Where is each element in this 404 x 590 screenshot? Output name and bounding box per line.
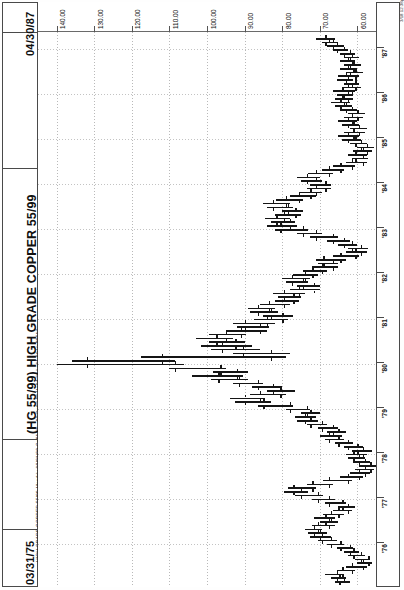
year-tick-label: '79: [381, 409, 388, 418]
year-tick-label: '81: [381, 319, 388, 328]
ohlc-close-tick: [273, 208, 274, 211]
price-tick-label: 60.00: [360, 13, 367, 29]
ohlc-close-tick: [348, 85, 349, 88]
ohlc-bar: [335, 98, 354, 100]
ohlc-bar: [312, 525, 335, 527]
ohlc-close-tick: [316, 193, 317, 196]
ohlc-bar: [327, 431, 346, 433]
ohlc-close-tick: [348, 511, 349, 514]
ohlc-bar: [353, 150, 372, 152]
ohlc-bar: [359, 465, 376, 467]
ohlc-close-tick: [280, 395, 281, 398]
ohlc-close-tick: [314, 534, 315, 537]
ohlc-bar: [355, 559, 370, 561]
price-axis-band: 140.00130.00120.00110.00100.0090.0080.00…: [38, 2, 376, 32]
ohlc-close-tick: [263, 407, 264, 410]
ohlc-close-tick: [299, 294, 300, 297]
ohlc-close-tick: [303, 287, 304, 290]
ohlc-close-tick: [363, 163, 364, 166]
ohlc-close-tick: [305, 279, 306, 282]
ohlc-bar: [275, 300, 299, 302]
ohlc-open-tick: [331, 537, 332, 540]
ohlc-open-tick: [237, 369, 238, 372]
ohlc-bar: [318, 263, 339, 265]
ohlc-open-tick: [316, 170, 317, 173]
ohlc-close-tick: [320, 538, 321, 541]
ohlc-bar: [248, 308, 274, 310]
ohlc-close-tick: [216, 343, 217, 346]
ohlc-open-tick: [357, 110, 358, 113]
ohlc-open-tick: [235, 339, 236, 342]
ohlc-open-tick: [361, 245, 362, 248]
ohlc-bar: [301, 180, 322, 182]
ohlc-open-tick: [273, 200, 274, 203]
ohlc-close-tick: [348, 100, 349, 103]
year-tick-mark: [377, 452, 384, 453]
ohlc-close-tick: [353, 129, 354, 132]
ohlc-bar: [297, 420, 318, 422]
ohlc-close-tick: [258, 388, 259, 391]
ohlc-open-tick: [260, 391, 261, 394]
ohlc-open-tick: [348, 504, 349, 507]
ohlc-open-tick: [323, 256, 324, 259]
ohlc-open-tick: [310, 410, 311, 413]
ohlc-close-tick: [342, 96, 343, 99]
ohlc-bar: [327, 45, 344, 47]
ohlc-close-tick: [312, 276, 313, 279]
ohlc-open-tick: [322, 421, 323, 424]
ohlc-close-tick: [370, 470, 371, 473]
start-date-label: 03/31/75: [24, 541, 36, 585]
ohlc-bar: [344, 117, 363, 119]
ohlc-close-tick: [352, 249, 353, 252]
year-tick-mark: [377, 227, 384, 228]
ohlc-open-tick: [293, 485, 294, 488]
year-tick-mark: [377, 362, 384, 363]
ohlc-close-tick: [312, 489, 313, 492]
ohlc-bar: [267, 207, 293, 209]
ohlc-close-tick: [260, 399, 261, 402]
ohlc-bar: [265, 218, 289, 220]
end-date-label: 04/30/87: [24, 12, 36, 56]
ohlc-bar: [169, 368, 225, 370]
ohlc-bar: [310, 184, 331, 186]
ohlc-close-tick: [316, 238, 317, 241]
ohlc-open-tick: [303, 226, 304, 229]
price-tick-label: 70.00: [322, 13, 329, 29]
ohlc-bar: [350, 128, 367, 130]
ohlc-bar: [278, 296, 301, 298]
year-tick-label: '83: [381, 229, 388, 238]
ohlc-bar: [211, 379, 249, 381]
ohlc-close-tick: [350, 73, 351, 76]
ohlc-close-tick: [245, 328, 246, 331]
ohlc-close-tick: [359, 133, 360, 136]
ohlc-bar: [357, 147, 374, 149]
ohlc-open-tick: [318, 492, 319, 495]
ohlc-close-tick: [353, 137, 354, 140]
ohlc-close-tick: [340, 107, 341, 110]
ohlc-close-tick: [355, 144, 356, 147]
ohlc-close-tick: [352, 167, 353, 170]
ohlc-open-tick: [340, 541, 341, 544]
ohlc-bar: [342, 139, 361, 141]
ohlc-open-tick: [357, 444, 358, 447]
ohlc-close-tick: [359, 463, 360, 466]
ohlc-close-tick: [333, 268, 334, 271]
ohlc-close-tick: [245, 403, 246, 406]
year-tick-label: '84: [381, 184, 388, 193]
ohlc-close-tick: [273, 392, 274, 395]
ohlc-close-tick: [344, 246, 345, 249]
info-column: 04/30/87 (HG 55/99) HIGH GRADE COPPER 55…: [2, 2, 38, 587]
ohlc-open-tick: [325, 35, 326, 38]
ohlc-bar: [312, 266, 338, 268]
ohlc-close-tick: [235, 347, 236, 350]
ohlc-close-tick: [162, 362, 163, 365]
ohlc-bar: [141, 356, 286, 358]
ohlc-close-tick: [322, 272, 323, 275]
ohlc-close-tick: [361, 148, 362, 151]
ohlc-close-tick: [338, 515, 339, 518]
ohlc-close-tick: [363, 156, 364, 159]
ohlc-bar: [346, 251, 367, 253]
ohlc-open-tick: [361, 552, 362, 555]
ohlc-bar: [303, 270, 327, 272]
year-tick-mark: [377, 137, 384, 138]
